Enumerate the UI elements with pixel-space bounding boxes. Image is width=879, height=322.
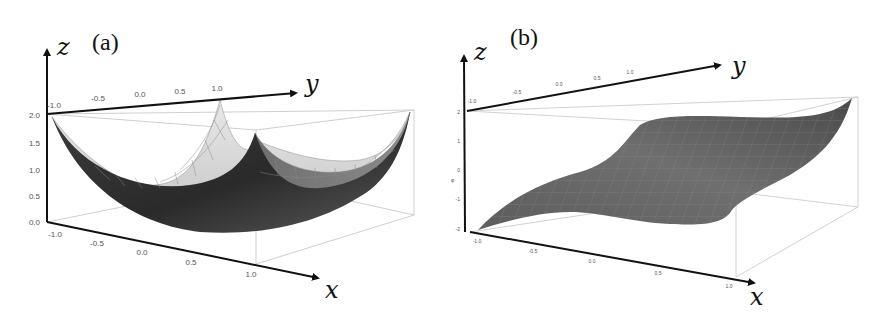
svg-text:1.0: 1.0: [627, 69, 634, 75]
svg-text:0.0: 0.0: [136, 248, 148, 257]
panel-label-a: (a): [92, 29, 119, 55]
z-axis-small-label: φ: [451, 177, 455, 183]
z-axis-label: z: [56, 33, 70, 61]
z-tick-labels: 2 1 0 -1 -2: [456, 109, 461, 232]
svg-text:0.0: 0.0: [134, 90, 146, 99]
mesh-grid: [478, 98, 852, 230]
svg-text:-1.0: -1.0: [468, 98, 477, 104]
x-tick-labels: -1.0 -0.5 0.0 0.5 1.0: [473, 238, 733, 289]
svg-text:1.5: 1.5: [29, 139, 41, 148]
svg-text:1: 1: [457, 138, 460, 144]
surface-plot-a: z y x (a) 2.0 1.5 1.0 0.5 0.0 -1.0 -0.5 …: [0, 0, 440, 322]
svg-text:-0.5: -0.5: [513, 89, 522, 95]
svg-text:0.5: 0.5: [185, 258, 197, 267]
y-axis: [467, 65, 720, 111]
panel-label-b: (b): [510, 24, 538, 50]
x-axis-label: x: [750, 283, 764, 311]
svg-text:0.5: 0.5: [174, 87, 186, 96]
svg-text:1.0: 1.0: [211, 84, 223, 93]
y-axis-label: y: [731, 52, 746, 80]
x-axis: [470, 232, 754, 283]
svg-text:0.5: 0.5: [594, 75, 601, 81]
svg-text:2.0: 2.0: [29, 111, 41, 120]
svg-text:1.0: 1.0: [245, 270, 257, 279]
svg-text:-0.5: -0.5: [91, 94, 105, 103]
svg-text:0.0: 0.0: [589, 258, 596, 264]
svg-text:0.5: 0.5: [29, 192, 41, 201]
x-axis-label: x: [325, 276, 339, 304]
y-tick-labels: -1.0 -0.5 0.0 0.5 1.0: [468, 69, 634, 104]
svg-text:-2: -2: [456, 226, 461, 232]
svg-text:1.0: 1.0: [29, 166, 41, 175]
y-axis: [47, 93, 296, 114]
svg-text:0: 0: [457, 167, 460, 173]
panel-b: z y x (b) φ 2 1 0 -1 -2 -1.0 -0.5 0.0 0.…: [440, 0, 879, 322]
x-axis: [47, 222, 318, 278]
svg-text:0.0: 0.0: [29, 218, 41, 227]
svg-text:-0.5: -0.5: [529, 248, 538, 254]
svg-text:-1: -1: [456, 196, 461, 202]
svg-text:2: 2: [457, 109, 460, 115]
surface-plot-b: z y x (b) φ 2 1 0 -1 -2 -1.0 -0.5 0.0 0.…: [440, 0, 879, 322]
y-axis-label: y: [304, 70, 319, 98]
svg-text:-1.0: -1.0: [47, 101, 61, 110]
z-tick-labels: 2.0 1.5 1.0 0.5 0.0: [29, 111, 41, 227]
svg-text:0.0: 0.0: [556, 81, 563, 87]
svg-text:0.5: 0.5: [655, 270, 662, 276]
svg-text:1.0: 1.0: [726, 283, 733, 289]
x-tick-labels: -1.0 -0.5 0.0 0.5 1.0: [48, 230, 257, 279]
svg-text:-1.0: -1.0: [473, 238, 482, 244]
svg-text:-0.5: -0.5: [90, 239, 104, 248]
svg-text:-1.0: -1.0: [48, 230, 62, 239]
panel-a: z y x (a) 2.0 1.5 1.0 0.5 0.0 -1.0 -0.5 …: [0, 0, 440, 322]
z-axis: [464, 56, 465, 232]
z-axis-label: z: [473, 38, 487, 66]
